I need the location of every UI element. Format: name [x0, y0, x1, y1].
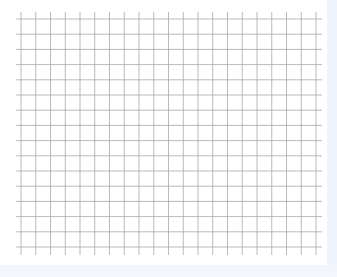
- right-edge-panel: [327, 0, 337, 277]
- grid-sheet: [0, 0, 327, 265]
- bottom-edge-panel: [0, 265, 337, 277]
